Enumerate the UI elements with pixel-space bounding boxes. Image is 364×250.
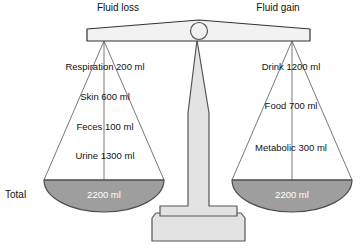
left-pan-total-value: 2200 ml xyxy=(87,190,121,200)
total-row-label: Total xyxy=(5,190,26,200)
heading-fluid-loss: Fluid loss xyxy=(97,3,139,13)
left-item-feces: Feces 100 ml xyxy=(76,122,133,132)
pivot-circle-icon xyxy=(191,23,208,40)
fluid-balance-diagram: Fluid loss Fluid gain Respiration 200 ml… xyxy=(0,0,364,250)
stand-column xyxy=(160,40,237,216)
balance-scale-graphic xyxy=(0,0,364,250)
left-item-urine: Urine 1300 ml xyxy=(75,151,134,161)
left-item-respiration: Respiration 200 ml xyxy=(65,62,144,72)
left-item-skin: Skin 600 ml xyxy=(80,92,130,102)
right-pan-total-value: 2200 ml xyxy=(275,190,309,200)
stand-base xyxy=(152,213,245,241)
right-item-metabolic: Metabolic 300 ml xyxy=(255,143,327,153)
heading-fluid-gain: Fluid gain xyxy=(256,3,299,13)
right-item-food: Food 700 ml xyxy=(265,101,318,111)
right-item-drink: Drink 1200 ml xyxy=(262,62,321,72)
